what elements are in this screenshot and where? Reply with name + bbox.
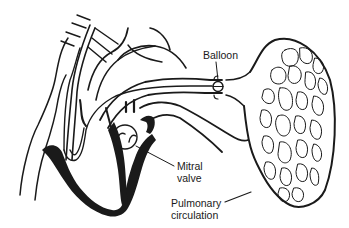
mitral-label-line1: Mitral — [177, 160, 203, 172]
balloon-leader — [216, 62, 218, 80]
pulmonary-vein — [140, 102, 248, 152]
pulmonary-artery — [100, 72, 250, 128]
heart-ventricles — [42, 100, 156, 217]
heart-catheter-diagram — [0, 0, 349, 228]
mitral-label-line2: valve — [177, 172, 203, 184]
balloon-label: Balloon — [203, 49, 238, 61]
pulmonary-leader — [225, 192, 251, 202]
pulmonary-label-line1: Pulmonary — [171, 197, 221, 209]
pulmonary-circulation — [244, 39, 335, 207]
balloon-label-text: Balloon — [203, 49, 238, 61]
pulmonary-label-line2: circulation — [171, 209, 221, 221]
pulmonary-circulation-label: Pulmonary circulation — [171, 197, 221, 221]
mitral-valve-label: Mitral valve — [177, 160, 203, 184]
